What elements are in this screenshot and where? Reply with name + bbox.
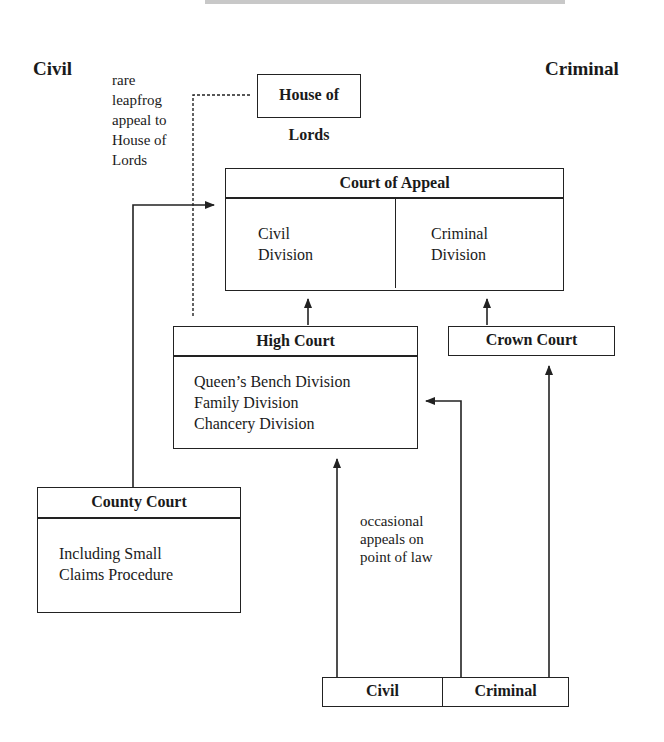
county-court-node: County Court Including Small Claims Proc… <box>37 487 241 613</box>
note-line: leapfrog <box>112 90 167 110</box>
criminal-division-cell: Criminal Division <box>396 199 563 288</box>
high-court-node: High Court Queen’s Bench Division Family… <box>173 326 418 449</box>
note-line: occasional <box>360 512 433 530</box>
division-line: Criminal <box>431 223 563 244</box>
high-court-divisions: Queen’s Bench Division Family Division C… <box>174 357 417 434</box>
magistrates-civil: Civil <box>323 678 443 706</box>
crown-court-node: Crown Court <box>448 326 615 356</box>
body-line: Including Small <box>59 543 240 564</box>
leapfrog-note: rare leapfrog appeal to House of Lords <box>112 70 167 170</box>
high-court-title: High Court <box>174 327 417 357</box>
division-item: Queen’s Bench Division <box>194 371 417 392</box>
body-line: Claims Procedure <box>59 564 240 585</box>
point-of-law-note: occasional appeals on point of law <box>360 512 433 566</box>
division-line: Division <box>258 244 395 265</box>
note-line: point of law <box>360 548 433 566</box>
note-line: House of <box>112 130 167 150</box>
note-line: appeals on <box>360 530 433 548</box>
court-of-appeal-title: Court of Appeal <box>226 169 563 199</box>
county-court-title: County Court <box>38 488 240 519</box>
magistrates-criminal: Criminal <box>443 678 568 706</box>
division-line: Civil <box>258 223 395 244</box>
division-line: Division <box>431 244 563 265</box>
county-court-body: Including Small Claims Procedure <box>38 519 240 585</box>
court-of-appeal-node: Court of Appeal Civil Division Criminal … <box>225 168 564 291</box>
house-of-lords-node: House of Lords <box>257 74 361 118</box>
division-item: Family Division <box>194 392 417 413</box>
magistrates-node: Civil Criminal <box>322 677 569 707</box>
division-item: Chancery Division <box>194 413 417 434</box>
note-line: appeal to <box>112 110 167 130</box>
note-line: rare <box>112 70 167 90</box>
crown-court-title: Crown Court <box>449 327 614 353</box>
civil-division-cell: Civil Division <box>226 199 396 288</box>
note-line: Lords <box>112 150 167 170</box>
house-of-lords-title: House of Lords <box>258 75 360 155</box>
